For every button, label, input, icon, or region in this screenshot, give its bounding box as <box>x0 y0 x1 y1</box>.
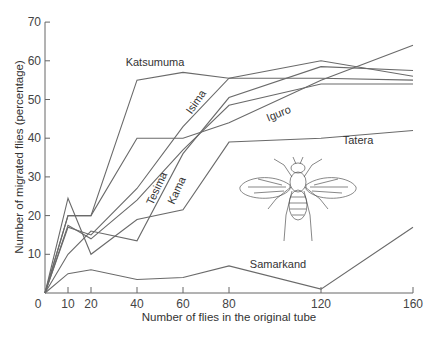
series-line-samarkand <box>45 227 413 293</box>
y-tick-label: 60 <box>28 54 42 68</box>
y-tick-label: 70 <box>28 15 42 29</box>
x-tick-label: 120 <box>311 297 331 311</box>
series-label-kama: Kama <box>165 174 188 206</box>
y-axis-title: Number of migrated flies (percentage) <box>13 60 25 254</box>
series-line-tatera <box>45 130 413 293</box>
series-label-katsumuma: Katsumuma <box>126 56 186 68</box>
y-tick-label: 40 <box>28 131 42 145</box>
x-tick-label: 80 <box>222 297 236 311</box>
y-tick-label: 50 <box>28 93 42 107</box>
series-line-tesima <box>45 45 413 293</box>
series-label-isima: Isima <box>183 87 208 116</box>
x-tick-label: 20 <box>84 297 98 311</box>
x-tick-label: 60 <box>176 297 190 311</box>
y-tick-label: 20 <box>28 209 42 223</box>
series-labels: KatsumumaIsimaIguroTateraTesimaKamaSamar… <box>126 56 375 270</box>
x-tick-label: 160 <box>403 297 423 311</box>
series-label-tatera: Tatera <box>343 134 374 146</box>
series-line-kama <box>45 67 413 293</box>
series-label-iguro: Iguro <box>265 103 293 124</box>
x-tick-label: 40 <box>130 297 144 311</box>
x-axis-title: Number of flies in the original tube <box>142 311 317 323</box>
line-chart: 1020304050607001020406080120160 Katsumum… <box>0 0 432 338</box>
series-lines <box>45 45 413 293</box>
series-line-isima <box>45 61 413 293</box>
fly-illustration-icon <box>240 157 356 241</box>
y-tick-label: 30 <box>28 170 42 184</box>
y-tick-label: 10 <box>28 247 42 261</box>
x-tick-label: 0 <box>35 297 42 311</box>
x-tick-label: 10 <box>61 297 75 311</box>
series-label-samarkand: Samarkand <box>250 258 306 270</box>
